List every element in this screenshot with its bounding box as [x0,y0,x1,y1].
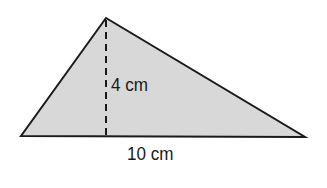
triangle-shape [21,18,305,137]
triangle-diagram: 4 cm 10 cm [0,0,327,188]
height-label: 4 cm [111,75,148,94]
base-label: 10 cm [127,144,174,163]
